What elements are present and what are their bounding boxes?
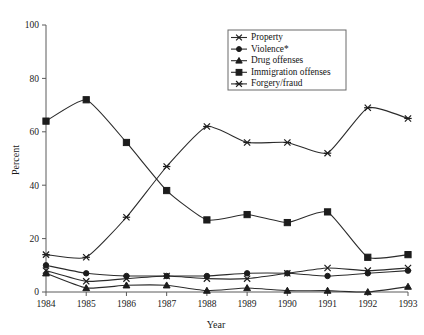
x-tick-label: 1985 [77, 299, 96, 309]
legend-label: Violence* [251, 44, 289, 54]
y-tick-label: 60 [30, 127, 40, 137]
chart-legend: PropertyViolence*Drug offensesImmigratio… [228, 30, 346, 90]
chart-container: 020406080100 198419851986198719881989199… [0, 0, 424, 335]
series-violence [43, 263, 410, 279]
y-tick-label: 40 [30, 181, 40, 191]
y-axis-title: Percent [10, 145, 21, 175]
x-tick-label: 1988 [197, 299, 216, 309]
x-tick-label: 1991 [318, 299, 337, 309]
y-tick-label: 100 [25, 20, 40, 30]
legend-label: Property [251, 32, 283, 42]
series-drug-offenses [43, 270, 412, 295]
legend-label: Immigration offenses [251, 67, 331, 77]
x-tick-label: 1986 [117, 299, 136, 309]
x-axis-title: Year [207, 319, 226, 330]
x-tick-label: 1990 [278, 299, 297, 309]
y-tick-label: 80 [30, 74, 40, 84]
x-axis: 1984198519861987198819891990199119921993 [37, 292, 418, 309]
x-tick-label: 1992 [358, 299, 377, 309]
x-tick-label: 1984 [37, 299, 56, 309]
legend-label: Forgery/fraud [251, 78, 303, 88]
data-series-group [42, 97, 411, 295]
x-tick-label: 1993 [399, 299, 418, 309]
series-forgery-fraud [42, 105, 411, 261]
x-tick-label: 1987 [157, 299, 176, 309]
line-chart: 020406080100 198419851986198719881989199… [0, 0, 424, 335]
y-tick-label: 20 [30, 234, 40, 244]
x-tick-label: 1989 [238, 299, 257, 309]
y-axis: 020406080100 [25, 20, 46, 297]
y-tick-label: 0 [34, 287, 39, 297]
legend-label: Drug offenses [251, 55, 304, 65]
series-immigration-offenses [43, 97, 411, 261]
